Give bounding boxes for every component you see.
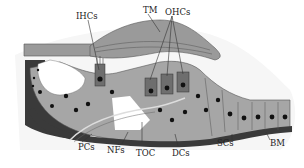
label-toc: TOC [136, 148, 155, 158]
label-pcs: PCs [78, 142, 95, 152]
nucleus [97, 76, 102, 81]
label-ihcs: IHCs [76, 11, 98, 21]
label-scs: SCs [217, 138, 234, 148]
inner-hair-cell [95, 64, 105, 86]
diagram-canvas: TM IHCs OHCs PCs NFs TOC DCs SCs BM [0, 0, 304, 168]
organ-of-corti-diagram: TM IHCs OHCs PCs NFs TOC DCs SCs BM [0, 0, 304, 168]
label-ohcs: OHCs [165, 7, 190, 17]
label-nfs: NFs [107, 145, 125, 155]
label-tm: TM [143, 5, 158, 15]
label-dcs: DCs [172, 148, 190, 158]
label-bm: BM [270, 138, 285, 148]
